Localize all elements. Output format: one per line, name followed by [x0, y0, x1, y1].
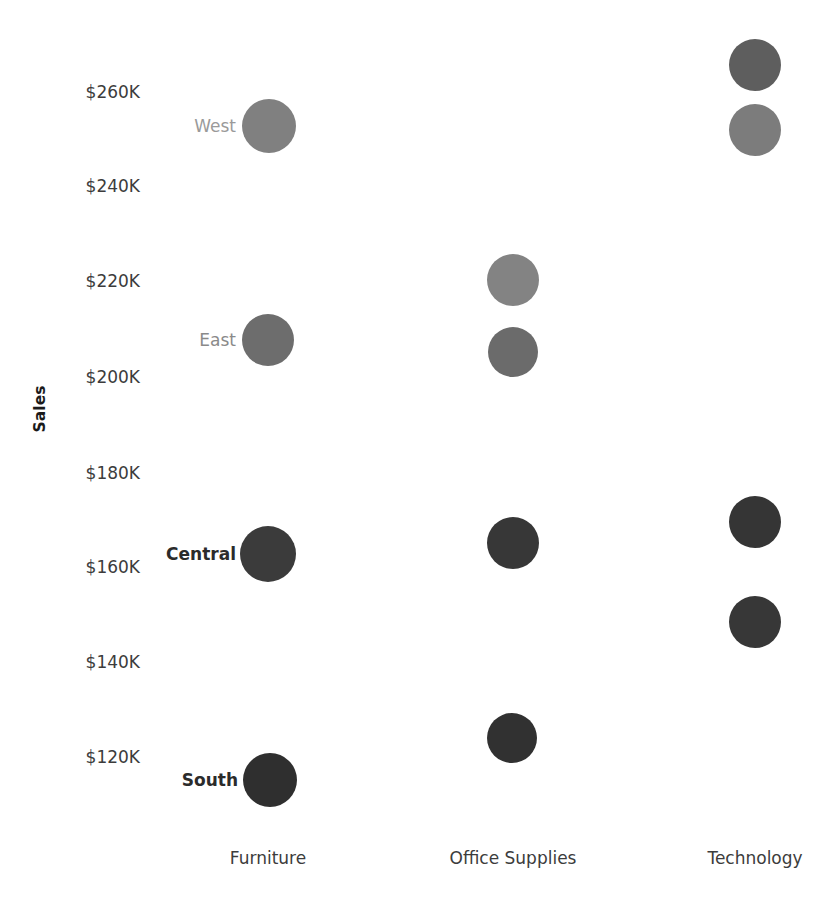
bubble-chart: Sales $260K$240K$220K$200K$180K$160K$140…	[0, 0, 833, 903]
bubble-west-technology-upper[interactable]	[729, 39, 781, 91]
bubble-central-furniture[interactable]	[240, 526, 296, 582]
y-axis-tick-label: $160K	[0, 559, 140, 576]
bubble-west-technology[interactable]	[729, 104, 781, 156]
bubble-east-office-upper[interactable]	[487, 254, 539, 306]
x-axis-tick-label: Furniture	[230, 850, 306, 867]
row-label-central: Central	[166, 546, 236, 563]
bubble-south-furniture[interactable]	[243, 753, 297, 807]
bubble-east-furniture[interactable]	[242, 314, 294, 366]
bubble-central-technology[interactable]	[729, 496, 781, 548]
bubble-south-office[interactable]	[487, 713, 537, 763]
y-axis-tick-label: $180K	[0, 465, 140, 482]
y-axis-tick-label: $200K	[0, 369, 140, 386]
y-axis-tick-label: $140K	[0, 654, 140, 671]
x-axis-tick-label: Office Supplies	[450, 850, 577, 867]
bubble-west-furniture[interactable]	[242, 99, 296, 153]
row-label-west: West	[194, 118, 236, 135]
row-label-south: South	[182, 772, 238, 789]
bubble-central-office[interactable]	[487, 517, 539, 569]
bubble-south-technology[interactable]	[729, 596, 781, 648]
y-axis-tick-label: $260K	[0, 84, 140, 101]
bubble-east-office-supplies[interactable]	[488, 327, 538, 377]
y-axis-tick-label: $220K	[0, 273, 140, 290]
row-label-east: East	[199, 332, 236, 349]
x-axis-tick-label: Technology	[707, 850, 802, 867]
y-axis-tick-label: $120K	[0, 749, 140, 766]
y-axis-tick-label: $240K	[0, 178, 140, 195]
